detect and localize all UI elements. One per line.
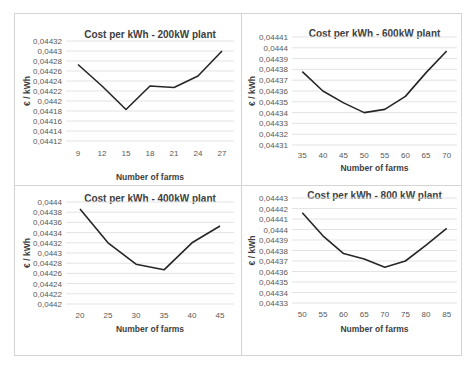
x-tick-label: 65 — [422, 151, 431, 160]
chart-200kw: Cost per kWh - 200kW plant0,044320,04430… — [14, 13, 241, 185]
y-tick-label: 0,0444 — [264, 44, 289, 53]
y-tick-label: 0,04424 — [33, 77, 62, 86]
x-tick-label: 45 — [339, 151, 348, 160]
y-tick-label: 0,04434 — [33, 229, 62, 238]
chart-600kw: Cost per kWh - 600kW plant0,044410,04440… — [242, 13, 462, 185]
chart-400kw: Cost per kWh - 400kW plant0,04440,044380… — [14, 186, 241, 356]
x-axis-label: Number of farms — [116, 172, 184, 182]
x-tick-label: 25 — [104, 311, 113, 320]
y-tick-label: 0,0444 — [264, 226, 289, 235]
chart-800kw: Cost per kWh - 800 kW plant0,044430,0444… — [242, 186, 462, 356]
y-tick-label: 0,04438 — [259, 247, 288, 256]
y-tick-label: 0,04439 — [259, 236, 288, 245]
x-tick-label: 60 — [339, 310, 348, 319]
y-tick-label: 0,0443 — [38, 249, 63, 258]
x-tick-label: 35 — [298, 151, 307, 160]
x-tick-label: 12 — [98, 149, 107, 158]
y-tick-label: 0,04428 — [33, 57, 62, 66]
y-tick-label: 0,0444 — [38, 198, 63, 207]
y-tick-label: 0,04438 — [259, 65, 288, 74]
x-tick-label: 35 — [160, 311, 169, 320]
x-tick-label: 40 — [188, 311, 197, 320]
y-tick-label: 0,04426 — [33, 269, 62, 278]
x-tick-label: 27 — [218, 149, 227, 158]
y-tick-label: 0,04414 — [33, 127, 62, 136]
y-tick-label: 0,04441 — [259, 215, 288, 224]
x-tick-label: 9 — [76, 149, 81, 158]
y-tick-label: 0,04439 — [259, 55, 288, 64]
x-tick-label: 15 — [122, 149, 131, 158]
y-tick-label: 0,04436 — [33, 218, 62, 227]
x-tick-label: 20 — [76, 311, 85, 320]
x-tick-label: 80 — [422, 310, 431, 319]
y-tick-label: 0,04432 — [33, 239, 62, 248]
x-tick-label: 50 — [360, 151, 369, 160]
x-tick-label: 55 — [318, 310, 327, 319]
y-tick-label: 0,0442 — [38, 300, 63, 309]
x-tick-label: 70 — [442, 151, 451, 160]
y-tick-label: 0,04422 — [33, 87, 62, 96]
x-tick-label: 65 — [360, 310, 369, 319]
y-tick-label: 0,04432 — [33, 37, 62, 46]
y-tick-label: 0,04428 — [33, 259, 62, 268]
chart-title: Cost per kWh - 800 kW plant — [307, 190, 442, 201]
y-axis-label: € / kWh — [247, 236, 257, 266]
y-tick-label: 0,04437 — [259, 76, 288, 85]
data-series-line — [80, 209, 220, 270]
y-tick-label: 0,04432 — [259, 130, 288, 139]
chart-title: Cost per kWh - 200kW plant — [84, 29, 216, 40]
y-tick-label: 0,04412 — [33, 137, 62, 146]
data-series-line — [302, 51, 446, 113]
y-tick-label: 0,04442 — [259, 205, 288, 214]
x-tick-label: 45 — [216, 311, 225, 320]
x-tick-label: 75 — [401, 310, 410, 319]
x-tick-label: 70 — [380, 310, 389, 319]
y-axis-label: € / kWh — [247, 76, 257, 106]
y-tick-label: 0,04418 — [33, 107, 62, 116]
x-tick-label: 60 — [401, 151, 410, 160]
y-tick-label: 0,04443 — [259, 194, 288, 203]
y-tick-label: 0,04441 — [259, 33, 288, 42]
x-axis-label: Number of farms — [116, 324, 184, 334]
x-tick-label: 18 — [146, 149, 155, 158]
y-tick-label: 0,04435 — [259, 278, 288, 287]
y-tick-label: 0,04416 — [33, 117, 62, 126]
y-tick-label: 0,04431 — [259, 141, 288, 150]
x-tick-label: 30 — [132, 311, 141, 320]
y-tick-label: 0,04424 — [33, 280, 62, 289]
y-tick-label: 0,04437 — [259, 257, 288, 266]
x-tick-label: 21 — [170, 149, 179, 158]
x-axis-label: Number of farms — [340, 163, 408, 173]
x-axis-label: Number of farms — [340, 324, 408, 334]
y-axis-label: € / kWh — [22, 76, 32, 106]
x-tick-label: 40 — [318, 151, 327, 160]
x-tick-label: 85 — [442, 310, 451, 319]
y-tick-label: 0,0443 — [38, 47, 63, 56]
x-tick-label: 55 — [380, 151, 389, 160]
x-tick-label: 50 — [298, 310, 307, 319]
y-axis-label: € / kWh — [22, 238, 32, 268]
y-tick-label: 0,04434 — [259, 289, 288, 298]
y-tick-label: 0,04435 — [259, 98, 288, 107]
y-tick-label: 0,04422 — [33, 290, 62, 299]
y-tick-label: 0,04436 — [259, 87, 288, 96]
y-tick-label: 0,0442 — [38, 97, 63, 106]
y-tick-label: 0,04433 — [259, 299, 288, 308]
y-tick-label: 0,04426 — [33, 67, 62, 76]
y-tick-label: 0,04438 — [33, 208, 62, 217]
y-tick-label: 0,04434 — [259, 109, 288, 118]
x-tick-label: 24 — [194, 149, 203, 158]
y-tick-label: 0,04433 — [259, 119, 288, 128]
y-tick-label: 0,04436 — [259, 268, 288, 277]
